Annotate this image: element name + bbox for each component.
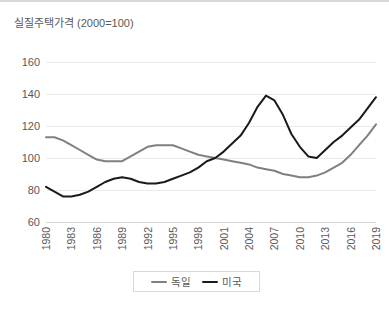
plot-area (46, 62, 376, 222)
legend-item[interactable]: 독일 (151, 274, 191, 289)
y-tick-label: 120 (0, 120, 40, 132)
x-tick-label: 2016 (346, 227, 357, 250)
x-tick-label: 1992 (143, 227, 154, 250)
series-line (46, 124, 376, 177)
legend: 독일미국 (133, 271, 260, 292)
chart-container: 실질주택가격 (2000=100) 6080100120140160 19801… (0, 0, 389, 312)
y-tick-label: 100 (0, 152, 40, 164)
legend-swatch (151, 281, 167, 283)
x-tick-label: 2019 (371, 227, 382, 250)
top-divider (0, 0, 389, 2)
chart-title: 실질주택가격 (2000=100) (14, 14, 134, 30)
x-tick-label: 1980 (41, 227, 52, 250)
x-tick-label: 2004 (244, 227, 255, 250)
x-tick-label: 1986 (92, 227, 103, 250)
x-axis-line (46, 222, 376, 223)
x-tick-label: 2013 (320, 227, 331, 250)
x-tick-label: 1995 (168, 227, 179, 250)
legend-item[interactable]: 미국 (202, 274, 242, 289)
x-tick-label: 1983 (66, 227, 77, 250)
legend-swatch (202, 281, 218, 283)
x-tick-label: 1998 (193, 227, 204, 250)
series-lines (46, 62, 376, 222)
x-tick-label: 2010 (295, 227, 306, 250)
legend-label: 미국 (222, 274, 242, 289)
y-tick-label: 60 (0, 216, 40, 228)
x-tick-label: 2001 (219, 227, 230, 250)
legend-label: 독일 (171, 274, 191, 289)
y-tick-label: 80 (0, 184, 40, 196)
x-tick-label: 1989 (117, 227, 128, 250)
series-line (46, 96, 376, 197)
x-tick-label: 2007 (269, 227, 280, 250)
y-tick-label: 160 (0, 56, 40, 68)
y-tick-label: 140 (0, 88, 40, 100)
